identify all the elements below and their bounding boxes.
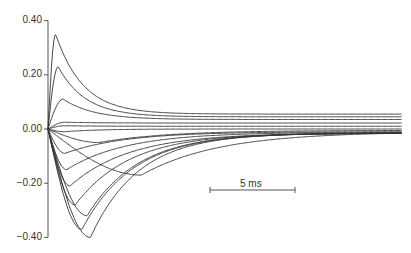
trace-line	[48, 129, 402, 175]
trace-line	[48, 122, 402, 129]
trace-line	[48, 129, 402, 229]
y-tick-label: 0.40	[2, 14, 42, 25]
y-tick-label: −0.20	[2, 177, 42, 188]
trace-line	[48, 129, 402, 205]
trace-line	[48, 126, 402, 129]
trace-line	[48, 35, 402, 129]
scale-bar-label: 5 ms	[240, 178, 262, 189]
y-tick-label: 0.20	[2, 68, 42, 79]
current-traces-chart: 0.40 0.20 0.00 −0.20 −0.40 5 ms	[0, 0, 411, 253]
y-tick-label: 0.00	[2, 123, 42, 134]
plot-area	[0, 0, 411, 253]
trace-line	[48, 129, 402, 170]
trace-line	[48, 129, 402, 237]
y-tick-label: −0.40	[2, 231, 42, 242]
trace-line	[48, 129, 402, 143]
